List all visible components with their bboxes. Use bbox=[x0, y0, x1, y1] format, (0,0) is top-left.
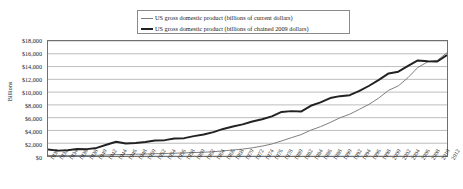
legend-swatch-chained-dollars-icon bbox=[141, 28, 153, 30]
plot-svg bbox=[48, 41, 447, 156]
y-axis-tick-label: $4,000 bbox=[8, 128, 42, 135]
y-axis-tick-label: $12,000 bbox=[8, 76, 42, 83]
gdp-line-chart: US gross domestic product (billions of c… bbox=[0, 0, 463, 189]
y-axis-tick-label: $10,000 bbox=[8, 89, 42, 96]
plot-area bbox=[47, 40, 448, 157]
y-axis-tick-label: $8,000 bbox=[8, 102, 42, 109]
x-axis-tick-label: 2012 bbox=[450, 148, 461, 161]
legend-item-current-dollars: US gross domestic product (billions of c… bbox=[141, 13, 346, 23]
chart-legend: US gross domestic product (billions of c… bbox=[137, 10, 350, 34]
y-axis-tick-label: $16,000 bbox=[8, 50, 42, 57]
legend-swatch-current-dollars-icon bbox=[141, 18, 153, 19]
legend-item-chained-dollars: US gross domestic product (billions of c… bbox=[141, 24, 346, 34]
y-axis-tick-labels: $18,000$16,000$14,000$12,000$10,000$8,00… bbox=[6, 0, 42, 189]
y-axis-tick-label: $6,000 bbox=[8, 115, 42, 122]
y-axis-tick-label: $0 bbox=[8, 154, 42, 161]
y-axis-tick-label: $14,000 bbox=[8, 63, 42, 70]
series-line bbox=[48, 53, 447, 156]
gridlines bbox=[48, 41, 447, 156]
series-lines bbox=[48, 53, 447, 156]
legend-label-current-dollars: US gross domestic product (billions of c… bbox=[155, 14, 293, 22]
y-axis-tick-label: $18,000 bbox=[8, 37, 42, 44]
y-axis-tick-label: $2,000 bbox=[8, 141, 42, 148]
legend-label-chained-dollars: US gross domestic product (billions of c… bbox=[155, 25, 309, 33]
x-axis-tick-labels: 1930193219341936193819401942194419461948… bbox=[47, 158, 448, 189]
series-line bbox=[48, 55, 447, 150]
